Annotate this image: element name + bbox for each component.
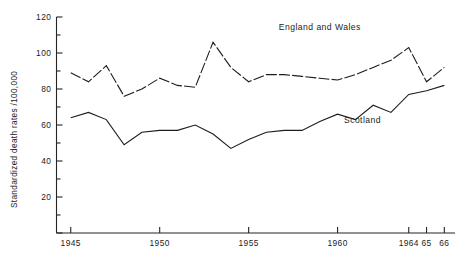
series-line-england-and-wales <box>71 42 445 96</box>
x-tick-label-1950: 1950 <box>150 238 170 248</box>
y-axis-title: Standardized death rates /100,000 <box>10 71 19 208</box>
y-tick-label-100: 100 <box>36 48 51 58</box>
y-tick-label-60: 60 <box>41 120 51 130</box>
line-chart: Standardized death rates /100,000 204060… <box>0 0 462 267</box>
x-axis-ticks <box>71 227 445 233</box>
x-tick-label-1945: 1945 <box>61 238 81 248</box>
x-tick-label-1960: 1960 <box>327 238 347 248</box>
x-tick-label-1964: 1964 <box>399 238 419 248</box>
y-axis-title-group: Standardized death rates /100,000 <box>10 71 19 208</box>
x-axis-tick-labels: 194519501955196019646566 <box>61 238 450 248</box>
y-axis-tick-labels: 20406080100120 <box>36 12 51 202</box>
y-tick-label-80: 80 <box>41 84 51 94</box>
x-tick-label-1955: 1955 <box>239 238 259 248</box>
axes <box>57 17 456 233</box>
y-tick-label-20: 20 <box>41 192 51 202</box>
x-tick-label-1965: 65 <box>421 238 431 248</box>
series-label-england-and-wales: England and Wales <box>279 22 361 32</box>
chart-root: Standardized death rates /100,000 204060… <box>0 0 462 267</box>
y-axis-ticks <box>57 17 63 233</box>
series-lines <box>71 42 445 148</box>
x-tick-label-1966: 66 <box>439 238 449 248</box>
y-tick-label-120: 120 <box>36 12 51 22</box>
y-tick-label-40: 40 <box>41 156 51 166</box>
series-annotations: England and WalesScotland <box>279 22 381 126</box>
series-label-scotland: Scotland <box>344 115 381 125</box>
